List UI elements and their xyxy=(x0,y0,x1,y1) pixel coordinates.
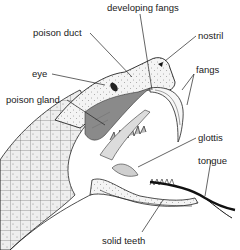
label-poison-gland: poison gland xyxy=(6,95,60,105)
glottis-shape xyxy=(112,164,138,176)
label-eye: eye xyxy=(32,69,47,79)
label-nostril: nostril xyxy=(198,31,223,41)
label-fangs: fangs xyxy=(196,65,219,75)
label-solid-teeth: solid teeth xyxy=(102,236,145,246)
label-developing-fangs: developing fangs xyxy=(107,3,179,13)
label-poison-duct: poison duct xyxy=(33,28,82,38)
fang-shape xyxy=(150,87,183,142)
label-glottis: glottis xyxy=(198,133,223,143)
snake-head-diagram: developing fangs poison duct nostril eye… xyxy=(0,0,240,250)
label-tongue: tongue xyxy=(198,156,227,166)
